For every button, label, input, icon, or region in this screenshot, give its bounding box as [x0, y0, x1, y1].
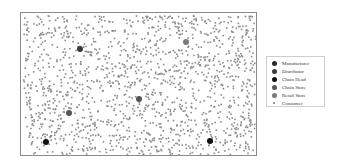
consumer-point [49, 32, 51, 34]
consumer-point [188, 119, 190, 121]
consumer-point [162, 102, 164, 104]
consumer-point [46, 54, 48, 56]
consumer-point [180, 108, 182, 110]
consumer-point [143, 48, 145, 50]
consumer-point [238, 23, 240, 25]
consumer-point [69, 57, 71, 59]
consumer-point [136, 48, 138, 50]
consumer-point [62, 96, 64, 98]
consumer-point [233, 97, 235, 99]
consumer-point [171, 129, 173, 131]
consumer-point [39, 56, 41, 58]
legend-label: Consumer [282, 101, 303, 106]
consumer-point [133, 56, 135, 58]
consumer-point [33, 125, 35, 127]
consumer-point [48, 28, 50, 30]
consumer-point [162, 104, 164, 106]
consumer-point [63, 108, 65, 110]
consumer-point [24, 17, 26, 19]
consumer-point [97, 119, 99, 121]
consumer-point [239, 26, 241, 28]
consumer-point [79, 84, 81, 86]
consumer-point [44, 40, 46, 42]
consumer-point [128, 119, 130, 121]
consumer-point [126, 149, 128, 151]
consumer-point [82, 74, 84, 76]
consumer-point [82, 89, 84, 91]
consumer-point [53, 121, 55, 123]
consumer-point [205, 23, 207, 25]
consumer-point [91, 44, 93, 46]
consumer-point [227, 72, 229, 74]
consumer-point [92, 97, 94, 99]
consumer-point [76, 133, 78, 135]
consumer-point [218, 31, 220, 33]
consumer-point [95, 41, 97, 43]
consumer-point [218, 53, 220, 55]
consumer-point [171, 147, 173, 149]
consumer-point [183, 89, 185, 91]
consumer-point [47, 151, 49, 153]
consumer-point [38, 60, 40, 62]
consumer-point [35, 113, 37, 115]
consumer-point [126, 38, 128, 40]
consumer-point [208, 124, 210, 126]
consumer-point [149, 40, 151, 42]
legend-item: Distributor [269, 67, 322, 75]
consumer-point [145, 47, 147, 49]
consumer-point [36, 90, 38, 92]
consumer-point [163, 74, 165, 76]
consumer-point [173, 50, 175, 52]
consumer-point [158, 150, 160, 152]
consumer-point [127, 86, 129, 88]
consumer-point [42, 60, 44, 62]
consumer-point [175, 134, 177, 136]
consumer-point [205, 113, 207, 115]
consumer-point [90, 54, 92, 56]
consumer-point [233, 37, 235, 39]
consumer-point [234, 59, 236, 61]
consumer-point [117, 81, 119, 83]
consumer-point [77, 107, 79, 109]
consumer-point [219, 23, 221, 25]
consumer-point [191, 21, 193, 23]
consumer-point [118, 41, 120, 43]
consumer-point [55, 30, 57, 32]
consumer-point [67, 91, 69, 93]
consumer-point [255, 36, 257, 38]
consumer-point [82, 99, 84, 101]
consumer-point [242, 117, 244, 119]
consumer-point [251, 56, 253, 58]
consumer-point [87, 86, 89, 88]
consumer-point [80, 130, 82, 132]
consumer-point [83, 32, 85, 34]
consumer-point [192, 34, 194, 36]
consumer-point [71, 149, 73, 151]
consumer-point [64, 21, 66, 23]
consumer-point [33, 41, 35, 43]
consumer-point [150, 61, 152, 63]
consumer-point [215, 36, 217, 38]
consumer-point [214, 25, 216, 27]
consumer-point [152, 138, 154, 140]
consumer-point [206, 123, 208, 125]
consumer-point [125, 72, 127, 74]
consumer-point [26, 97, 28, 99]
consumer-point [110, 149, 112, 151]
consumer-point [123, 118, 125, 120]
consumer-point [102, 90, 104, 92]
consumer-point [71, 97, 73, 99]
consumer-point [148, 98, 150, 100]
consumer-point [24, 87, 26, 89]
consumer-point [149, 140, 151, 142]
consumer-point [53, 102, 55, 104]
consumer-point [171, 153, 173, 155]
consumer-point [108, 21, 110, 23]
consumer-point [63, 140, 65, 142]
consumer-point [230, 154, 232, 156]
consumer-point [52, 44, 54, 46]
consumer-point [29, 106, 31, 108]
consumer-point [214, 83, 216, 85]
consumer-point [215, 141, 217, 143]
consumer-point [176, 26, 178, 28]
